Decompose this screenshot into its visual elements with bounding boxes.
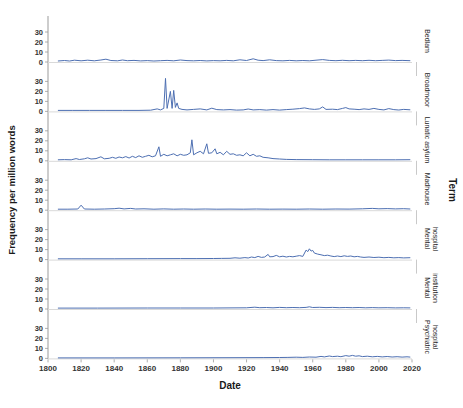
y-tick-label: 30 (35, 28, 43, 37)
y-tick-label: 20 (35, 334, 43, 343)
series-line-lunatic-asylum (58, 140, 410, 160)
y-tick-label: 30 (35, 324, 43, 333)
x-tick-label: 1980 (337, 364, 355, 373)
series-line-mental-hospital (58, 249, 410, 259)
term-frequency-facet-chart: Frequency per million words 010203001020… (0, 0, 463, 408)
y-tick-label: 0 (39, 107, 43, 116)
series-line-mental-institution (58, 307, 410, 308)
y-tick-label: 20 (35, 136, 43, 145)
y-tick-label: 10 (35, 344, 43, 353)
series-line-bedlam (58, 59, 410, 61)
facet-label-psychiatric-hospital: Psychiatrichospital (423, 320, 439, 354)
series-line-psychiatric-hospital (58, 355, 410, 358)
series-line-broadmoor (58, 78, 410, 110)
x-tick-label: 2020 (403, 364, 421, 373)
y-tick-label: 30 (35, 126, 43, 135)
y-tick-label: 30 (35, 77, 43, 86)
y-tick-label: 10 (35, 245, 43, 254)
y-tick-label: 30 (35, 225, 43, 234)
facet-label-mental-hospital: Mentalhospital (423, 227, 439, 251)
facet-label-lunatic-asylum: Lunatic asylum (423, 116, 431, 163)
y-tick-label: 20 (35, 186, 43, 195)
y-tick-label: 20 (35, 38, 43, 47)
facet-label-broadmoor: Broadmoor (423, 73, 431, 108)
y-tick-label: 20 (35, 285, 43, 294)
x-tick-label: 1960 (304, 364, 322, 373)
y-tick-label: 30 (35, 275, 43, 284)
y-tick-label: 0 (39, 58, 43, 67)
x-tick-label: 1920 (238, 364, 256, 373)
y-tick-label: 10 (35, 146, 43, 155)
x-tick-label: 1840 (105, 364, 123, 373)
y-tick-label: 10 (35, 295, 43, 304)
y-tick-label: 10 (35, 97, 43, 106)
y-tick-label: 30 (35, 176, 43, 185)
x-tick-label: 1800 (39, 364, 57, 373)
y-tick-label: 0 (39, 305, 43, 314)
facet-label-mental-institution: Mentalinstitution (423, 273, 439, 303)
facet-axis-title: Term (447, 178, 458, 202)
chart-canvas: 0102030010203001020300102030010203001020… (0, 0, 463, 408)
facet-label-bedlam: Bedlam (423, 29, 431, 53)
y-tick-label: 20 (35, 235, 43, 244)
x-axis-title: Date (219, 380, 241, 391)
x-tick-label: 2000 (370, 364, 388, 373)
y-tick-label: 0 (39, 156, 43, 165)
facet-label-madhouse: Madhouse (423, 173, 431, 206)
x-tick-label: 1860 (138, 364, 156, 373)
x-tick-label: 1900 (205, 364, 223, 373)
y-tick-label: 10 (35, 48, 43, 57)
y-tick-label: 10 (35, 196, 43, 205)
y-tick-label: 0 (39, 206, 43, 215)
y-tick-label: 0 (39, 255, 43, 264)
y-tick-label: 0 (39, 354, 43, 363)
x-tick-label: 1940 (271, 364, 289, 373)
x-tick-label: 1820 (72, 364, 90, 373)
x-tick-label: 1880 (171, 364, 189, 373)
series-line-madhouse (58, 205, 410, 209)
y-tick-label: 20 (35, 87, 43, 96)
